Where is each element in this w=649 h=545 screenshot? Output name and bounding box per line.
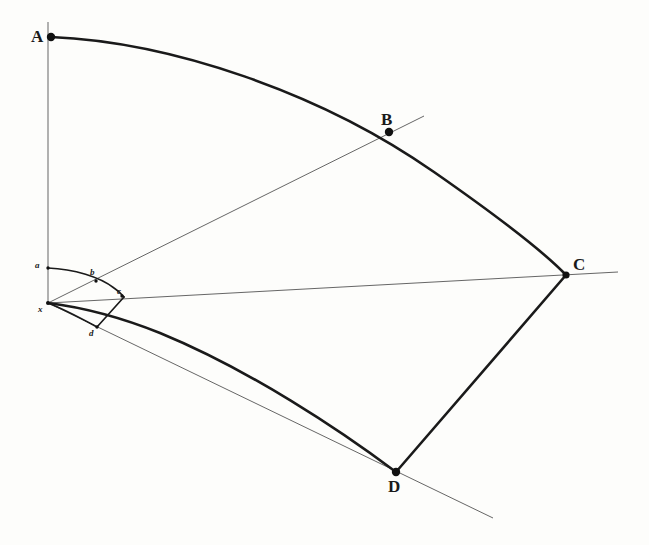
ray-through-point-b [48, 116, 424, 303]
minor-vertex-dots [46, 266, 124, 328]
vertex-dot-small-b [94, 279, 97, 282]
construction-rays [48, 22, 618, 518]
label-point-a: A [31, 28, 43, 45]
inner-arc-a-to-c [48, 268, 124, 297]
chord-c-to-d [396, 275, 566, 472]
vertex-dot-d [392, 468, 400, 476]
vertex-dot-a [47, 33, 55, 41]
label-point-d: D [388, 478, 400, 495]
label-apex-vertex: x [38, 305, 43, 314]
label-point-small-d: d [89, 329, 94, 338]
vertex-dot-c [562, 271, 569, 278]
label-point-small-b: b [90, 268, 95, 277]
diagram-canvas: A B C D a b c d x [0, 0, 649, 545]
major-vertex-dots [47, 33, 570, 476]
vertex-dot-apex [46, 301, 50, 305]
ray-through-point-d [48, 303, 493, 518]
vertex-dot-small-a [46, 266, 49, 269]
label-point-small-a: a [35, 261, 40, 270]
vertex-dot-b [385, 128, 393, 136]
construction-svg [0, 0, 649, 545]
vertex-dot-small-d [95, 325, 98, 328]
label-point-b: B [381, 111, 393, 128]
ray-through-point-c [48, 272, 618, 303]
label-point-small-c: c [117, 287, 121, 296]
inner-chord-c-to-d [97, 297, 124, 327]
arc-a-to-c [51, 37, 566, 275]
label-point-c: C [573, 256, 585, 273]
outer-figure [48, 37, 566, 472]
